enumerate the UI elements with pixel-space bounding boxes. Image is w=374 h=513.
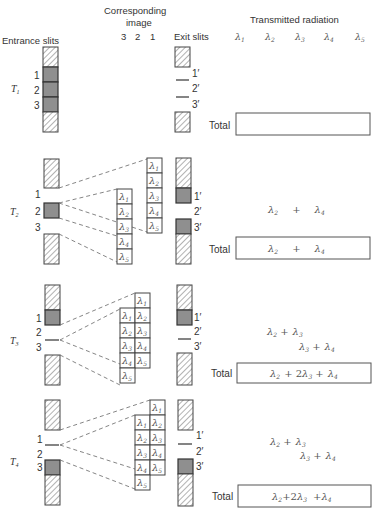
slit-label-2: 2	[37, 449, 43, 460]
exit-mask-top	[176, 158, 191, 188]
exit-label-3: 3′	[192, 99, 200, 110]
exit-label-2: 2′	[194, 206, 202, 217]
transmitted-line-2: λ3+λ4	[298, 341, 335, 353]
slit-label-2: 2	[36, 327, 42, 338]
exit-mask-bottom	[178, 474, 193, 506]
exit-label-1: 1′	[192, 68, 200, 79]
corresponding-image-heading-2: image	[126, 17, 152, 28]
slit-label-3: 3	[34, 100, 40, 111]
lambda-5-header: λ5	[354, 31, 365, 43]
exit-mask-bottom	[177, 353, 192, 385]
exit-label-3: 3′	[194, 222, 202, 233]
slit-label-1: 1	[36, 313, 42, 324]
entrance-mask-top	[45, 400, 60, 430]
exit-mask-top	[175, 47, 190, 67]
exit-slit-3-open	[178, 459, 193, 474]
slit-label-2: 2	[35, 206, 41, 217]
row-label-t2: T2	[10, 206, 19, 218]
wavelength-header-row: λ1 λ2 λ3 λ4 λ5	[234, 31, 365, 43]
entrance-slit-1-open	[43, 67, 58, 82]
slit-label-3: 3	[36, 342, 42, 353]
exit-mask-top	[177, 285, 192, 310]
exit-label-3: 3′	[194, 341, 202, 352]
total-label: Total	[209, 244, 230, 255]
row-t4: T4 1 2 3 λ1 λ1λ2 λ2λ3 λ3λ4 λ4λ5 λ5	[10, 400, 371, 507]
lambda-4-header: λ4	[323, 31, 334, 43]
entrance-slit-3-open	[43, 97, 58, 112]
image-column-slit2: λ1 λ2 λ3 λ4 λ5	[117, 189, 132, 264]
row-label-t1: T1	[11, 83, 20, 95]
entrance-mask-top	[43, 47, 58, 67]
total-label: Total	[209, 120, 230, 131]
exit-label-1: 1′	[194, 312, 202, 323]
transmitted-line-1: λ2+λ3	[269, 436, 306, 448]
total-box	[236, 237, 370, 259]
exit-slit-1-open	[176, 188, 191, 203]
entrance-slit-1-open	[45, 310, 60, 325]
lambda-3-header: λ3	[294, 31, 305, 43]
total-label: Total	[211, 368, 232, 379]
exit-label-1: 1′	[196, 430, 204, 441]
total-box-empty	[236, 113, 370, 135]
hadamard-slit-diagram: Entrance slits Corresponding image 3 2 1…	[0, 0, 374, 513]
row-label-t3: T3	[10, 335, 19, 347]
slit-label-1: 1	[35, 189, 41, 200]
entrance-slit-2-open	[43, 82, 58, 97]
exit-slit-3-open	[176, 219, 191, 234]
entrance-mask-top	[44, 159, 59, 188]
transmitted-line-2: λ3+λ4	[299, 450, 336, 462]
image-number-1: 1	[150, 31, 155, 42]
transmitted-line: λ2+λ4	[267, 204, 325, 216]
slit-label-1: 1	[34, 70, 40, 81]
exit-slits-heading: Exit slits	[174, 31, 209, 42]
entrance-slit-2-open	[44, 203, 59, 218]
exit-label-2: 2′	[194, 326, 202, 337]
exit-mask-top	[178, 400, 193, 430]
image-number-2: 2	[135, 31, 140, 42]
exit-label-3: 3′	[196, 461, 204, 472]
exit-label-2: 2′	[196, 446, 204, 457]
entrance-mask-top	[45, 285, 60, 310]
image-grid-t3: λ1 λ1λ2 λ2λ3 λ3λ4 λ4λ5 λ5	[120, 293, 150, 383]
header: Entrance slits Corresponding image 3 2 1…	[2, 5, 365, 46]
entrance-mask-bottom	[45, 475, 60, 505]
slit-label-1: 1	[37, 434, 43, 445]
exit-mask-bottom	[175, 112, 190, 132]
exit-label-1: 1′	[194, 191, 202, 202]
exit-slit-1-open	[177, 310, 192, 325]
row-t1: T1 1 2 3 1′ 2′ 3′ Total	[11, 47, 370, 135]
total-label: Total	[212, 491, 233, 502]
slit-label-2: 2	[34, 85, 40, 96]
row-t3: T3 1 2 3 λ1 λ1λ2 λ2λ3 λ3λ4 λ4λ5 λ5	[10, 285, 371, 385]
entrance-slits-heading: Entrance slits	[2, 35, 59, 46]
image-grid-t4: λ1 λ1λ2 λ2λ3 λ3λ4 λ4λ5 λ5	[135, 400, 165, 490]
exit-mask-bottom	[176, 234, 191, 264]
row-t2: T2 1 2 3 λ1 λ2 λ3 λ4 λ5	[10, 158, 370, 264]
lambda-2-header: λ2	[264, 31, 275, 43]
slit-label-3: 3	[35, 222, 41, 233]
entrance-mask-bottom	[43, 112, 58, 132]
corresponding-image-heading: Corresponding	[104, 5, 166, 16]
transmitted-radiation-heading: Transmitted radiation	[250, 14, 339, 25]
entrance-mask-bottom	[44, 234, 59, 264]
exit-label-2: 2′	[192, 83, 200, 94]
slit-label-3: 3	[37, 462, 43, 473]
image-column-upper: λ1 λ2 λ3 λ4 λ5	[147, 158, 162, 233]
lambda-1-header: λ1	[234, 31, 245, 43]
entrance-mask-bottom	[45, 355, 60, 385]
row-label-t4: T4	[10, 456, 19, 468]
transmitted-line-1: λ2+λ3	[266, 326, 303, 338]
entrance-slit-3-open	[45, 460, 60, 475]
image-number-3: 3	[121, 31, 126, 42]
